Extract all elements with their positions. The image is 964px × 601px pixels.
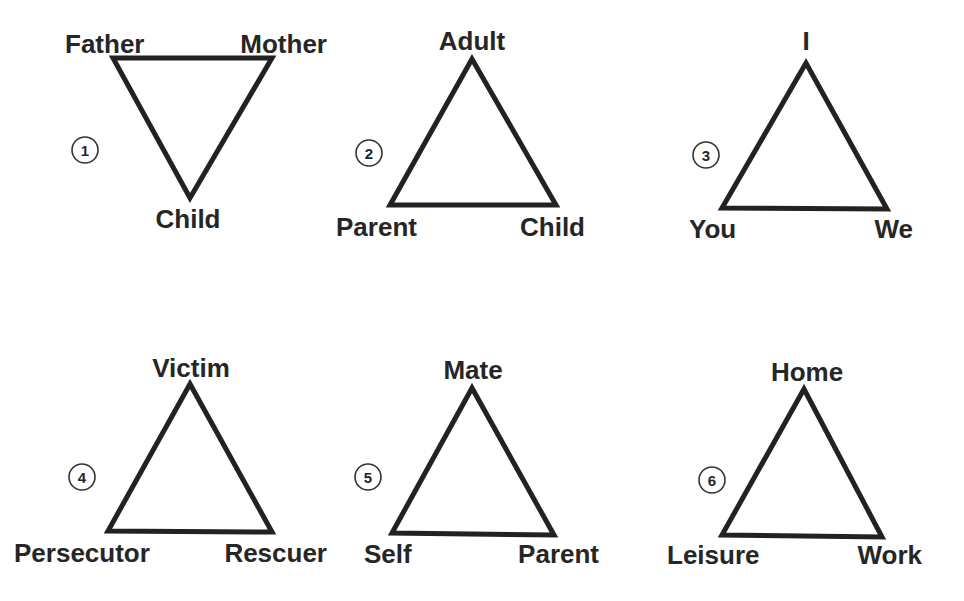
vertex-label-mate: Mate [443, 355, 502, 385]
vertex-label-rescuer: Rescuer [224, 538, 327, 568]
triangle-group-2: 2 Adult Parent Child [336, 26, 585, 242]
vertex-label-work: Work [857, 540, 922, 570]
triangle-group-6: 6 Home Leisure Work [667, 357, 923, 570]
vertex-label-adult: Adult [439, 26, 506, 56]
triangle-shape [722, 63, 887, 209]
vertex-label-father: Father [65, 29, 144, 59]
vertex-label-child: Child [520, 212, 585, 242]
triangle-shape [108, 384, 272, 532]
triangle-shape [392, 388, 554, 535]
vertex-label-persecutor: Persecutor [14, 538, 150, 568]
vertex-label-we: We [874, 214, 913, 244]
triangle-shape [113, 58, 272, 198]
triangle-number: 4 [78, 469, 87, 486]
triangle-number: 2 [365, 145, 373, 162]
vertex-label-you: You [689, 214, 736, 244]
triangle-number: 1 [81, 142, 89, 159]
vertex-label-home: Home [771, 357, 843, 387]
vertex-label-parent: Parent [336, 212, 417, 242]
vertex-label-victim: Victim [152, 353, 230, 383]
triangle-number: 5 [364, 469, 372, 486]
triangle-number: 6 [708, 472, 716, 489]
vertex-label-self: Self [364, 539, 412, 569]
triangle-group-3: 3 I You We [689, 26, 913, 244]
triangle-number: 3 [702, 147, 710, 164]
triangles-diagram: 1 Father Mother Child 2 Adult Parent Chi… [0, 0, 964, 601]
triangle-group-5: 5 Mate Self Parent [355, 355, 599, 569]
triangle-group-1: 1 Father Mother Child [65, 29, 327, 234]
triangle-shape [390, 59, 556, 205]
vertex-label-i: I [802, 26, 809, 56]
vertex-label-parent: Parent [518, 539, 599, 569]
vertex-label-leisure: Leisure [667, 540, 760, 570]
triangle-shape [722, 389, 882, 537]
triangle-group-4: 4 Victim Persecutor Rescuer [14, 353, 327, 568]
vertex-label-child: Child [156, 204, 221, 234]
vertex-label-mother: Mother [240, 29, 327, 59]
